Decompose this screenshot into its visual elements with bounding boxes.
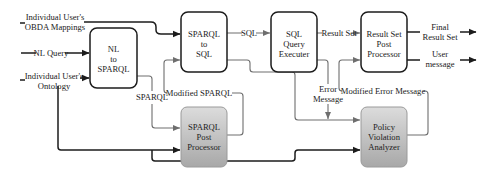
label-modified-sparql: Modified SPARQL xyxy=(166,88,232,98)
svg-text:Ontology: Ontology xyxy=(38,81,71,91)
box-policy-violation-analyzer: Policy Violation Analyzer xyxy=(361,107,407,167)
svg-text:Policy: Policy xyxy=(373,122,396,132)
svg-text:Executer: Executer xyxy=(279,49,310,59)
svg-text:Processor: Processor xyxy=(187,142,221,152)
architecture-diagram: NL to SPARQL SPARQL to SQL SQL Query Exe… xyxy=(0,0,487,180)
box-sparql-post-processor: SPARQL Post Processor xyxy=(181,107,227,167)
svg-text:SPARQL: SPARQL xyxy=(188,29,220,39)
svg-text:Query: Query xyxy=(283,39,305,49)
svg-text:SPARQL: SPARQL xyxy=(97,64,129,74)
box-nl-to-sparql: NL to SPARQL xyxy=(90,28,137,88)
label-sql: SQL xyxy=(241,28,257,38)
label-sparql: SPARQL xyxy=(136,92,168,102)
label-error-message-1: Error xyxy=(319,84,337,94)
svg-text:Post: Post xyxy=(377,39,392,49)
svg-text:SQL: SQL xyxy=(196,49,212,59)
edge-sparql xyxy=(137,76,180,128)
svg-text:SPARQL: SPARQL xyxy=(188,122,220,132)
svg-text:OBDA Mappings: OBDA Mappings xyxy=(25,22,86,32)
box-sparql-to-sql: SPARQL to SQL xyxy=(181,12,227,72)
svg-text:Individual User's: Individual User's xyxy=(25,71,84,81)
svg-text:Result Set: Result Set xyxy=(366,29,402,39)
svg-text:Individual User's: Individual User's xyxy=(26,12,85,22)
svg-text:Processor: Processor xyxy=(367,49,401,59)
box-sql-query-executer: SQL Query Executer xyxy=(271,12,317,72)
input-nl-query: NL Query xyxy=(34,48,69,58)
label-result-set: Result Set xyxy=(321,28,357,38)
svg-text:Analyzer: Analyzer xyxy=(368,142,400,152)
svg-text:to: to xyxy=(201,39,208,49)
svg-text:to: to xyxy=(110,54,117,64)
input-ontology: Individual User's Ontology xyxy=(20,71,84,91)
svg-text:NL: NL xyxy=(108,44,119,54)
output-user-message-1: User xyxy=(432,49,448,59)
output-user-message-2: message xyxy=(425,59,454,69)
output-final-result-1: Final xyxy=(431,22,449,32)
svg-text:Post: Post xyxy=(197,132,212,142)
output-final-result-2: Result Set xyxy=(422,32,458,42)
label-modified-error-message: Modified Error Message xyxy=(341,86,426,96)
label-error-message-2: Message xyxy=(313,94,343,104)
svg-text:SQL: SQL xyxy=(286,29,302,39)
box-result-set-post-processor: Result Set Post Processor xyxy=(361,12,407,72)
input-obda-mappings: Individual User's OBDA Mappings xyxy=(20,12,86,32)
svg-text:Violation: Violation xyxy=(368,132,401,142)
